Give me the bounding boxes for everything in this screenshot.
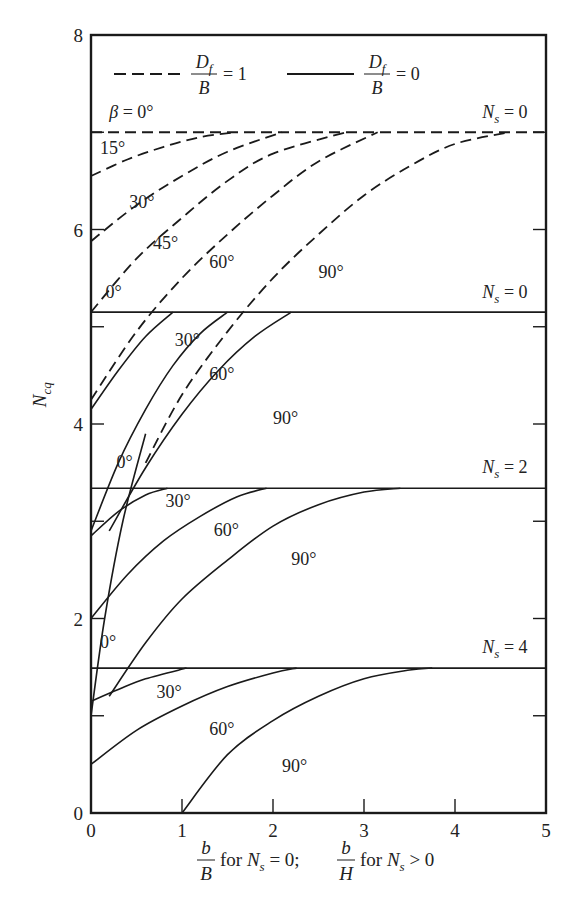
curve-label: 0° <box>116 452 132 472</box>
curve-label: 15° <box>100 138 125 158</box>
legend-fraction-numerator: Df <box>368 52 388 76</box>
y-tick-label: 0 <box>74 803 84 824</box>
legend-value: = 0 <box>396 64 420 84</box>
y-tick-label: 4 <box>74 414 84 435</box>
x-tick-label: 2 <box>268 820 278 841</box>
ns-label: Ns = 0 <box>481 282 527 306</box>
x-tick-label: 4 <box>450 820 460 841</box>
x-label-fraction-den: H <box>338 863 354 884</box>
beta-label: β = 0° <box>108 102 153 122</box>
y-tick-label: 8 <box>74 25 84 46</box>
legend-fraction-denominator: B <box>372 78 383 98</box>
x-tick-label: 5 <box>541 820 551 841</box>
y-tick-label: 2 <box>74 609 84 630</box>
curve-label: 30° <box>157 682 182 702</box>
legend: DfB= 1DfB= 0 <box>114 52 420 98</box>
curve-label: 60° <box>214 520 239 540</box>
curve-df-b-1-ns-0-90 <box>146 132 510 463</box>
x-label-fraction-num: b <box>201 837 211 858</box>
y-tick-label: 6 <box>74 220 84 241</box>
x-tick-label: 0 <box>86 820 96 841</box>
curve-label: 30° <box>175 330 200 350</box>
axis-ticks: 01234502468 <box>74 25 551 841</box>
curve-label: 60° <box>209 252 234 272</box>
curve-label: 60° <box>209 364 234 384</box>
ns-label: Ns = 2 <box>481 457 527 481</box>
curve-label: 30° <box>129 192 154 212</box>
x-label-fraction-num: b <box>341 837 351 858</box>
curve-df-b-0-ns-0-90 <box>109 312 291 531</box>
x-label-fraction-den: B <box>200 863 212 884</box>
curve-label: 60° <box>209 719 234 739</box>
legend-value: = 1 <box>223 64 247 84</box>
x-label-text: for Ns = 0; <box>220 849 300 874</box>
chart: 01234502468 DfB= 1DfB= 0 15°30°45°60°90°… <box>0 0 577 921</box>
curve-label: 30° <box>166 491 191 511</box>
x-label-text: for Ns > 0 <box>360 849 434 874</box>
curve-df-b-0-ns-0-0-transition-0-label-curve-ns-2-region <box>91 434 146 716</box>
curve-label: 0° <box>106 282 122 302</box>
curve-label: 0° <box>100 632 116 652</box>
x-tick-label: 1 <box>177 820 187 841</box>
ns-label: Ns = 0 <box>481 102 527 126</box>
y-axis-label: Ncq <box>29 382 54 408</box>
ns-label: Ns = 4 <box>481 637 527 661</box>
curve-label: 90° <box>282 756 307 776</box>
curve-df-b-0-ns-2-90 <box>109 488 400 696</box>
x-tick-label: 3 <box>359 820 369 841</box>
curve-label: 45° <box>153 233 178 253</box>
curve-label: 90° <box>319 262 344 282</box>
legend-fraction-numerator: Df <box>195 52 215 76</box>
curve-label: 90° <box>291 549 316 569</box>
curve-df-b-0-ns-0-60 <box>91 312 228 531</box>
legend-fraction-denominator: B <box>199 78 210 98</box>
curve-label: 90° <box>273 408 298 428</box>
curve-df-b-0-ns-4-60 <box>91 668 297 764</box>
